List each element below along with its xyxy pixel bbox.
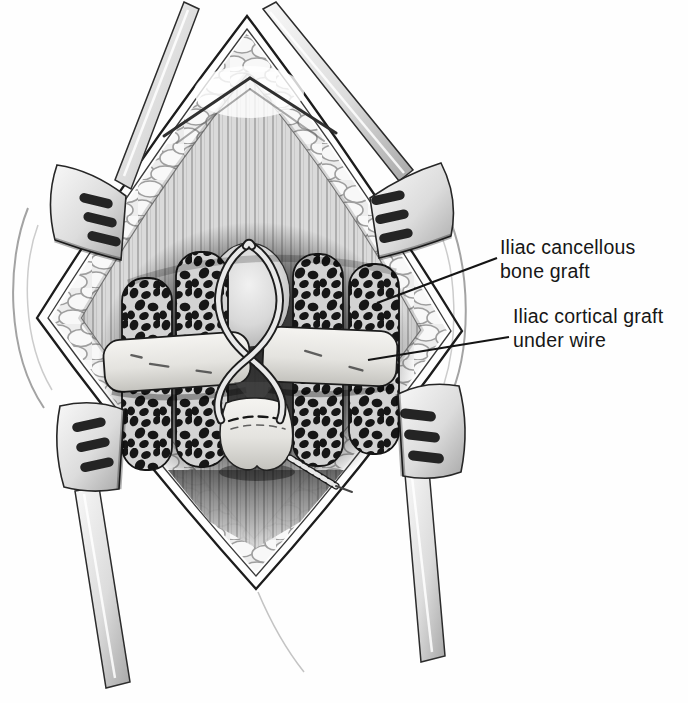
label-line-2: bone graft	[500, 260, 635, 284]
retractor-handle	[75, 487, 130, 688]
retractor-lower-right	[398, 384, 465, 662]
retractor-rake-head	[370, 163, 453, 258]
medical-figure: Iliac cancellous bone graft Iliac cortic…	[0, 0, 688, 703]
iliac-cortical-graft-right	[262, 326, 398, 387]
muscle-below-grafts	[168, 470, 344, 548]
label-iliac-cortical-graft-under-wire: Iliac cortical graft under wire	[513, 305, 663, 352]
label-iliac-cancellous-bone-graft: Iliac cancellous bone graft	[500, 236, 635, 283]
label-line-1: Iliac cortical graft	[513, 305, 663, 329]
retractor-lower-left	[57, 403, 130, 688]
retractor-handle	[405, 470, 445, 662]
label-line-2: under wire	[513, 329, 663, 353]
label-line-1: Iliac cancellous	[500, 236, 635, 260]
